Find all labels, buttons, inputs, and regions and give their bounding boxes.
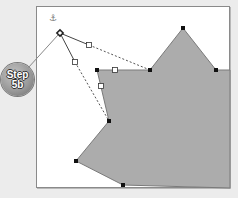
direction-line xyxy=(60,33,89,45)
anchor-point[interactable] xyxy=(107,119,111,123)
anchor-point[interactable] xyxy=(121,183,125,187)
anchor-point[interactable] xyxy=(95,68,99,72)
star-polygon-shape[interactable] xyxy=(76,28,230,188)
anchor-point[interactable] xyxy=(214,68,218,72)
bezier-handle[interactable] xyxy=(73,60,78,65)
bezier-handle[interactable] xyxy=(87,43,92,48)
preview-path-line xyxy=(89,45,150,70)
anchor-point[interactable] xyxy=(74,159,78,163)
direction-line xyxy=(60,33,75,62)
step-badge: Step 5b xyxy=(1,63,34,96)
anchor-point-icon: ⚓ xyxy=(49,13,57,23)
callout-line xyxy=(28,35,58,68)
illustration-stage: ⚓ Step 5b xyxy=(0,0,238,198)
anchor-point[interactable] xyxy=(181,26,185,30)
step-badge-number: 5b xyxy=(12,80,24,90)
bezier-handle[interactable] xyxy=(113,68,118,73)
vector-drawing: ⚓ xyxy=(0,0,238,198)
anchor-point[interactable] xyxy=(148,68,152,72)
bezier-handle[interactable] xyxy=(99,84,104,89)
step-badge-label: Step xyxy=(7,70,29,80)
